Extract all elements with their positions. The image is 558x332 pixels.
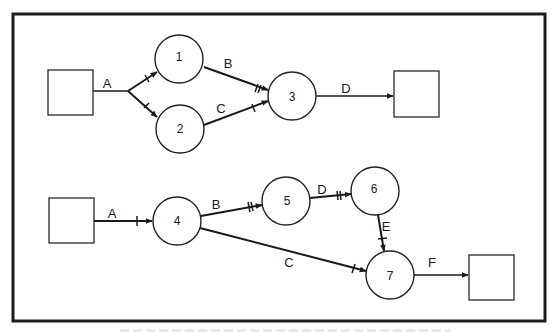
node-2-label: 2 (177, 122, 184, 136)
tick-mark (251, 202, 253, 211)
node-7-label: 7 (387, 269, 394, 283)
edge-label-a-bottom: A (108, 206, 117, 221)
node-6-label: 6 (371, 182, 378, 196)
node-4-label: 4 (174, 214, 181, 228)
network-diagram: 1 2 3 A B C D 4 5 6 7 (0, 0, 558, 332)
tick-mark (340, 191, 341, 200)
edge-a-top-to-node-2 (128, 91, 157, 117)
edge-c-bottom (200, 228, 366, 271)
end-box-bottom (469, 255, 514, 300)
edge-label-d-bottom: D (317, 182, 326, 197)
start-box-top (48, 70, 93, 115)
node-3-label: 3 (289, 90, 296, 104)
start-box-bottom (49, 198, 94, 243)
tick-mark (337, 191, 338, 200)
edge-a-top-to-node-1 (128, 72, 157, 91)
edge-label-b-top: B (224, 56, 233, 71)
end-box-top (394, 71, 439, 117)
edge-label-c-top: C (216, 101, 225, 116)
edge-label-a-top: A (103, 76, 112, 91)
node-5-label: 5 (284, 194, 291, 208)
edge-d-bottom (310, 194, 351, 198)
edge-b-top (204, 67, 268, 90)
edge-label-d-top: D (341, 81, 350, 96)
clipped-caption (120, 325, 450, 332)
edge-label-c-bottom: C (284, 255, 293, 270)
node-1-label: 1 (176, 50, 183, 64)
edge-c-top (204, 101, 268, 125)
edge-label-f-bottom: F (428, 255, 436, 270)
bottom-network: 4 5 6 7 A B C D E F (49, 167, 514, 300)
edge-label-b-bottom: B (212, 197, 221, 212)
top-network: 1 2 3 A B C D (48, 35, 439, 153)
edge-label-e-bottom: E (382, 219, 391, 234)
tick-mark (248, 202, 250, 212)
tick-mark (378, 238, 387, 239)
